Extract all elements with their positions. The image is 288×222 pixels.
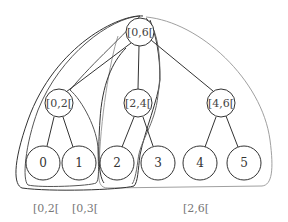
query-label-0-2: [0,2[ bbox=[33, 202, 59, 215]
leaf-5: 5 bbox=[227, 146, 261, 180]
svg-text:5: 5 bbox=[240, 156, 248, 170]
segment-tree-diagram: [0,6[ [0,2[ [2,4[ [4,6[ 0 1 2 3 4 5 [0,2… bbox=[0, 0, 288, 222]
svg-text:4: 4 bbox=[196, 156, 204, 170]
node-root-label: [0,6[ bbox=[127, 26, 153, 39]
leaf-1: 1 bbox=[62, 146, 96, 180]
leaf-4: 4 bbox=[183, 146, 217, 180]
svg-text:3: 3 bbox=[154, 156, 162, 170]
node-left-label: [0,2[ bbox=[46, 97, 72, 110]
leaf-0: 0 bbox=[26, 146, 60, 180]
node-left: [0,2[ bbox=[45, 89, 73, 117]
node-middle: [2,4[ bbox=[124, 89, 152, 117]
query-label-0-3: [0,3[ bbox=[72, 202, 98, 215]
node-middle-label: [2,4[ bbox=[125, 97, 151, 110]
node-root: [0,6[ bbox=[126, 18, 154, 46]
svg-text:2: 2 bbox=[113, 156, 121, 170]
leaf-2: 2 bbox=[100, 146, 134, 180]
node-right: [4,6[ bbox=[207, 89, 235, 117]
leaf-3: 3 bbox=[141, 146, 175, 180]
query-label-2-6: [2,6[ bbox=[183, 202, 209, 215]
svg-text:0: 0 bbox=[39, 156, 47, 170]
svg-text:1: 1 bbox=[75, 156, 83, 170]
node-right-label: [4,6[ bbox=[208, 97, 234, 110]
